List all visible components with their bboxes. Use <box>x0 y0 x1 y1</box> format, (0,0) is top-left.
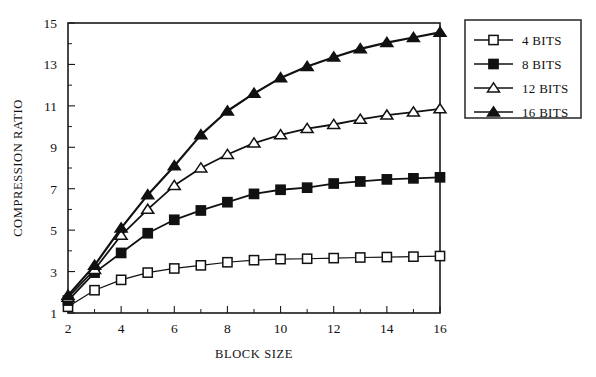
x-tick-label: 16 <box>433 321 447 336</box>
x-tick-label: 2 <box>65 321 72 336</box>
data-point <box>143 268 152 277</box>
data-point <box>434 27 446 36</box>
data-point <box>196 261 205 270</box>
data-point <box>409 174 418 183</box>
data-point <box>223 258 232 267</box>
data-point <box>329 254 338 263</box>
data-point <box>356 177 365 186</box>
y-axis-tick-labels: 13579111315 <box>44 16 58 321</box>
data-point <box>117 275 126 284</box>
x-tick-label: 14 <box>380 321 394 336</box>
data-point <box>382 252 391 261</box>
legend-label: 8 BITS <box>522 57 562 72</box>
x-axis-tick-labels: 246810121416 <box>65 321 447 336</box>
data-point <box>195 163 207 172</box>
y-tick-label: 9 <box>50 140 57 155</box>
y-tick-label: 7 <box>50 182 57 197</box>
data-point <box>303 183 312 192</box>
data-point <box>249 256 258 265</box>
x-tick-label: 10 <box>274 321 288 336</box>
series-4-bits <box>63 251 444 311</box>
data-point <box>303 254 312 263</box>
data-series-group <box>62 27 446 311</box>
chart-figure: 246810121416 13579111315 BLOCK SIZE COMP… <box>0 0 596 377</box>
y-axis-title: COMPRESSION RATIO <box>11 99 25 237</box>
data-point <box>170 215 179 224</box>
y-tick-label: 5 <box>50 223 57 238</box>
y-tick-label: 1 <box>50 306 57 321</box>
chart-legend: 4 BITS8 BITS12 BITS16 BITS <box>465 20 581 120</box>
data-point <box>223 198 232 207</box>
y-tick-label: 11 <box>44 99 57 114</box>
data-point <box>434 104 446 113</box>
y-tick-label: 3 <box>50 265 57 280</box>
data-point <box>382 175 391 184</box>
data-point <box>276 185 285 194</box>
data-point <box>90 286 99 295</box>
x-tick-label: 6 <box>171 321 178 336</box>
data-point <box>435 251 444 260</box>
legend-marker-filled-square <box>489 59 498 68</box>
data-point <box>409 252 418 261</box>
y-tick-label: 13 <box>44 57 58 72</box>
data-point <box>117 248 126 257</box>
data-point <box>170 264 179 273</box>
data-point <box>435 173 444 182</box>
x-tick-label: 4 <box>118 321 125 336</box>
x-tick-label: 8 <box>224 321 231 336</box>
data-point <box>196 206 205 215</box>
x-axis-title: BLOCK SIZE <box>215 347 293 361</box>
compression-ratio-line-chart: 246810121416 13579111315 BLOCK SIZE COMP… <box>0 0 596 377</box>
x-axis-ticks <box>68 306 440 313</box>
plot-frame <box>68 23 440 313</box>
legend-label: 12 BITS <box>522 81 569 96</box>
data-point <box>143 229 152 238</box>
data-point <box>276 255 285 264</box>
data-point <box>329 179 338 188</box>
y-axis-ticks <box>68 23 75 313</box>
y-tick-label: 15 <box>44 16 58 31</box>
legend-label: 16 BITS <box>522 105 569 120</box>
series-12-bits <box>62 104 446 302</box>
legend-marker-open-square <box>489 35 498 44</box>
legend-label: 4 BITS <box>522 33 562 48</box>
data-point <box>249 189 258 198</box>
data-point <box>356 253 365 262</box>
data-point <box>248 88 260 97</box>
x-tick-label: 12 <box>327 321 341 336</box>
data-point <box>221 149 233 158</box>
